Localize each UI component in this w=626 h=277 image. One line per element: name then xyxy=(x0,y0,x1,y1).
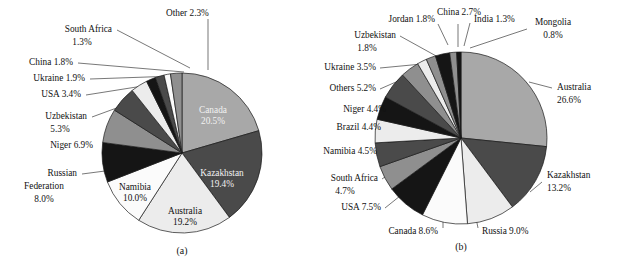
leader-b-jordan xyxy=(438,24,448,45)
slice-label-australia-line2: 19.2% xyxy=(173,217,197,227)
leader-b-uzbekistan xyxy=(400,36,438,57)
label-b-australia-line1: Australia xyxy=(557,82,591,92)
panel-b: Jordan 1.8% China 2.7% India 1.3% Mongol… xyxy=(323,7,591,253)
label-b-mongolia-line2: 0.8% xyxy=(543,30,563,40)
leader-b-usa xyxy=(385,196,400,208)
label-b-niger: Niger 4.4% xyxy=(343,104,386,114)
label-china: China 1.8% xyxy=(29,57,73,67)
label-b-south-africa-line2: 4.7% xyxy=(335,186,355,196)
panel-a-caption: (a) xyxy=(177,245,188,257)
panel-a: Canada 20.5% Kazakhstan 19.4% Australia … xyxy=(24,8,262,257)
pie-chart-figure: Canada 20.5% Kazakhstan 19.4% Australia … xyxy=(0,0,626,277)
label-b-uzbekistan-line1: Uzbekistan xyxy=(354,30,396,40)
label-b-kazakhstan-line1: Kazakhstan xyxy=(547,170,591,180)
label-b-kazakhstan-line2: 13.2% xyxy=(547,183,571,193)
label-uzbekistan-line2: 5.3% xyxy=(50,124,70,134)
label-niger: Niger 6.9% xyxy=(50,140,93,150)
label-b-russia: Russia 9.0% xyxy=(482,226,529,236)
label-b-others: Others 5.2% xyxy=(330,83,377,93)
slice-label-namibia-line1: Namibia xyxy=(119,182,151,192)
panel-b-caption: (b) xyxy=(455,241,466,253)
label-b-australia-line2: 26.6% xyxy=(557,95,581,105)
label-ukraine: Ukraine 1.9% xyxy=(33,73,85,83)
label-b-usa: USA 7.5% xyxy=(341,202,381,212)
label-other: Other 2.3% xyxy=(166,8,209,18)
figure-canvas: Canada 20.5% Kazakhstan 19.4% Australia … xyxy=(0,0,626,277)
label-b-ukraine: Ukraine 3.5% xyxy=(324,62,376,72)
leader-china xyxy=(78,63,184,72)
slice-label-kazakhstan-line2: 19.4% xyxy=(210,179,234,189)
label-usa: USA 3.4% xyxy=(41,89,81,99)
label-b-south-africa-line1: South Africa xyxy=(331,173,378,183)
label-b-canada: Canada 8.6% xyxy=(388,226,438,236)
slice-label-kazakhstan-line1: Kazakhstan xyxy=(200,168,244,178)
label-uzbekistan-line1: Uzbekistan xyxy=(45,111,87,121)
label-b-namibia: Namibia 4.5% xyxy=(323,146,377,156)
label-b-jordan: Jordan 1.8% xyxy=(389,14,436,24)
slice-label-australia-line1: Australia xyxy=(168,206,202,216)
label-b-brazil: Brazil 4.4% xyxy=(337,122,382,132)
label-russia-line2: Federation xyxy=(24,181,64,191)
pie-slice xyxy=(461,52,547,147)
label-russia-line3: 8.0% xyxy=(34,194,54,204)
slice-label-namibia-line2: 10.0% xyxy=(123,193,147,203)
slice-label-canada-line2: 20.5% xyxy=(201,116,225,126)
slice-label-canada-line1: Canada xyxy=(199,105,227,115)
label-b-india: India 1.3% xyxy=(474,14,515,24)
label-b-uzbekistan-line2: 1.8% xyxy=(357,43,377,53)
label-russia-line1: Russian xyxy=(48,168,78,178)
label-b-mongolia-line1: Mongolia xyxy=(535,17,571,27)
panel-b-slices xyxy=(375,52,547,224)
leader-south-africa xyxy=(117,30,190,68)
leader-b-india xyxy=(464,23,470,46)
leader-b-australia xyxy=(529,82,552,88)
label-south-africa-line1: South Africa xyxy=(65,24,112,34)
leader-b-mongolia xyxy=(470,29,527,48)
label-south-africa-line2: 1.3% xyxy=(72,37,92,47)
